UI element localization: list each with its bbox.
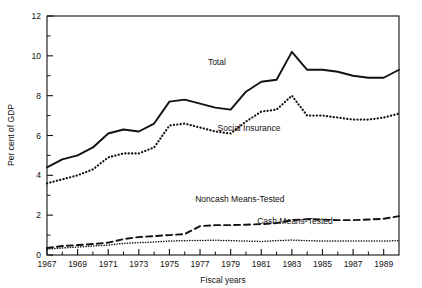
x-tick-label: 1967 xyxy=(38,259,57,269)
x-tick-label: 1977 xyxy=(191,259,210,269)
plot-area-border xyxy=(47,16,399,255)
plot-frame xyxy=(47,16,399,255)
x-tick-label: 1985 xyxy=(313,259,332,269)
x-tick-label: 1983 xyxy=(282,259,301,269)
y-tick-label: 2 xyxy=(36,210,41,220)
x-tick-label: 1979 xyxy=(221,259,240,269)
y-tick-label: 4 xyxy=(36,170,41,180)
chart-container: 024681012 196719691971197319751977197919… xyxy=(0,0,422,288)
y-axis-tick-labels: 024681012 xyxy=(32,11,42,260)
x-tick-label: 1971 xyxy=(99,259,118,269)
y-tick-label: 12 xyxy=(32,11,42,21)
series-label-0: Total xyxy=(208,57,226,67)
y-axis-title: Per cent of GDP xyxy=(6,104,16,166)
x-tick-label: 1975 xyxy=(160,259,179,269)
x-tick-label: 1981 xyxy=(252,259,271,269)
series-label-3: Cash Means-Tested xyxy=(257,216,333,226)
x-axis-tick-labels: 1967196919711973197519771979198119831985… xyxy=(38,259,394,269)
x-tick-label: 1973 xyxy=(129,259,148,269)
y-tick-label: 10 xyxy=(32,51,42,61)
x-axis-title: Fiscal years xyxy=(200,275,245,285)
y-tick-label: 6 xyxy=(36,131,41,141)
series-label-1: Social Insurance xyxy=(218,123,281,133)
series-label-2: Noncash Means-Tested xyxy=(195,194,285,204)
y-tick-label: 8 xyxy=(36,91,41,101)
gdp-expenditure-line-chart: 024681012 196719691971197319751977197919… xyxy=(0,0,422,288)
x-tick-label: 1987 xyxy=(344,259,363,269)
x-tick-label: 1989 xyxy=(374,259,393,269)
x-tick-label: 1969 xyxy=(68,259,87,269)
